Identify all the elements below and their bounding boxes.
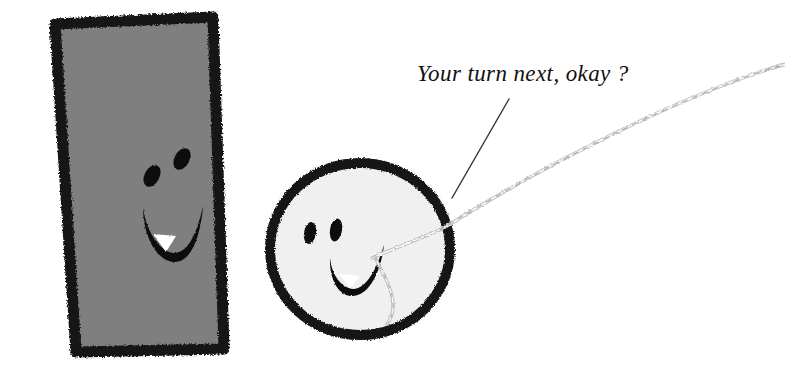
circle-body [270, 163, 450, 335]
circle-character [270, 163, 450, 335]
illustration-canvas [0, 0, 785, 371]
caption-leader-line [452, 99, 509, 198]
rectangle-character [55, 17, 224, 352]
rectangle-body [55, 17, 224, 352]
illustration-scene: Your turn next, okay ? [0, 0, 785, 371]
caption-text: Your turn next, okay ? [417, 62, 629, 85]
